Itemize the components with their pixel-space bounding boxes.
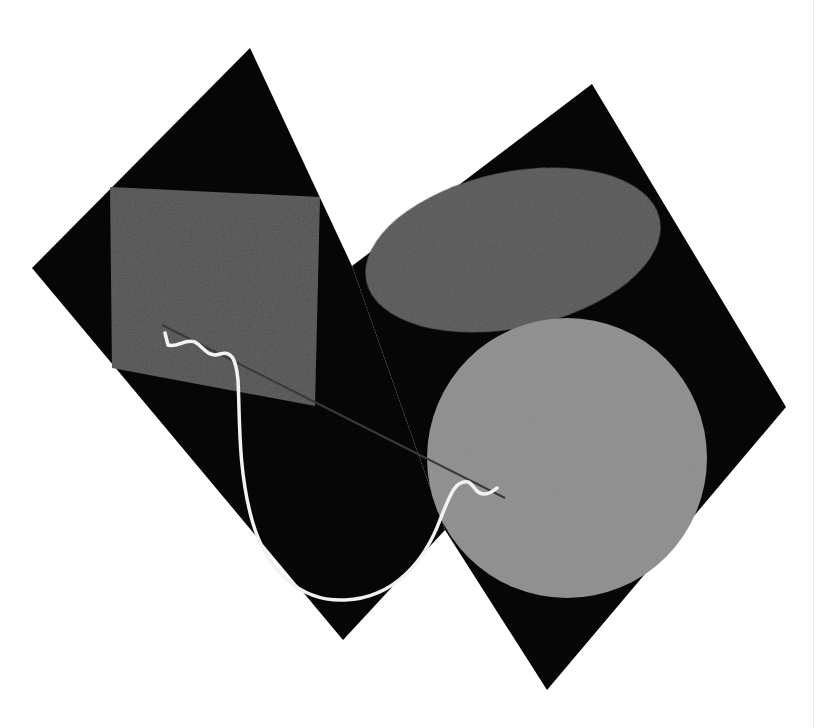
gray-rectangle [110, 187, 320, 406]
abstract-artwork [0, 0, 824, 728]
gray-circle [427, 318, 707, 598]
paper-edge-line [813, 0, 814, 728]
